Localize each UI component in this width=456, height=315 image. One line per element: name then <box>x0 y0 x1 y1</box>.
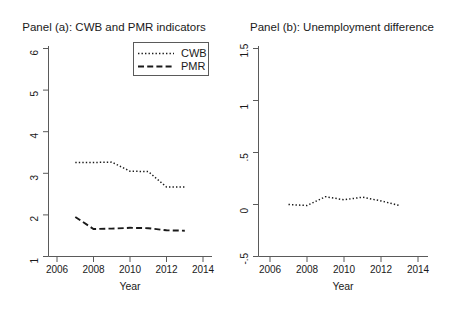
panel-b-xtick-2014: 2014 <box>407 264 429 275</box>
panel-a-xtick-2006: 2006 <box>46 264 68 275</box>
panel-a-y-ticks <box>43 49 49 257</box>
panel-a-ytick-6: 6 <box>26 42 42 53</box>
panel-b-ytick-1: 1 <box>234 94 254 105</box>
panel-b-xlabel: Year <box>258 280 428 292</box>
panel-a-ytick-3: 3 <box>26 167 42 178</box>
panel-b-ytick-0: 0 <box>234 198 254 209</box>
panel-a-ytick-5: 5 <box>26 83 42 94</box>
figure-canvas: Panel (a): CWB and PMR indicators <box>0 0 456 315</box>
panel-a-x-ticks <box>57 257 203 263</box>
panel-a: Panel (a): CWB and PMR indicators <box>0 0 228 315</box>
legend-item-pmr: PMR <box>138 59 203 72</box>
panel-b-ytick-1-5: 1.5 <box>234 42 254 53</box>
series-pmr-line <box>75 217 185 231</box>
panel-a-xlabel: Year <box>48 280 212 292</box>
legend-label-pmr: PMR <box>181 60 205 72</box>
panel-a-xtick-2010: 2010 <box>119 264 141 275</box>
panel-b-xtick-2006: 2006 <box>259 264 281 275</box>
panel-b-xtick-2008: 2008 <box>296 264 318 275</box>
panel-b-x-ticks <box>270 257 418 263</box>
panel-a-xtick-2008: 2008 <box>82 264 104 275</box>
series-cwb-line <box>75 162 185 187</box>
panel-b-xtick-2012: 2012 <box>370 264 392 275</box>
panel-a-legend: CWB PMR <box>133 42 209 76</box>
panel-a-ytick-1: 1 <box>26 250 42 261</box>
legend-item-cwb: CWB <box>138 46 203 59</box>
panel-b-xtick-2010: 2010 <box>333 264 355 275</box>
panel-a-xtick-2012: 2012 <box>155 264 177 275</box>
panel-a-ytick-4: 4 <box>26 125 42 136</box>
panel-b: Panel (b): Unemployment difference <box>228 0 456 315</box>
panel-b-ytick-neg-half: -.5 <box>234 249 254 260</box>
pmr-dashed-line-icon <box>138 61 174 71</box>
panel-b-ytick-half: .5 <box>234 146 254 157</box>
series-unemployment-difference-line <box>289 197 400 206</box>
legend-label-cwb: CWB <box>181 47 207 59</box>
panel-a-ytick-2: 2 <box>26 208 42 219</box>
cwb-dotted-line-icon <box>138 48 174 58</box>
panel-a-xtick-2014: 2014 <box>192 264 214 275</box>
